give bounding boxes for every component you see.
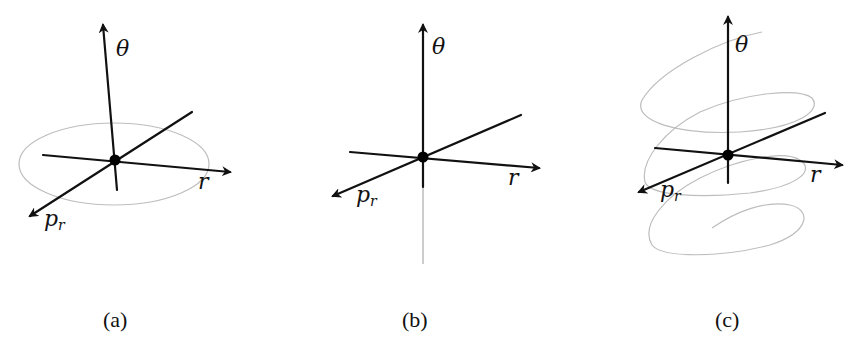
panel-a: θ r p r (a) — [19, 25, 230, 332]
p-label: p — [356, 182, 370, 207]
theta-label: θ — [116, 36, 129, 61]
panel-b: θ r p r (b) — [333, 25, 539, 332]
r-label: r — [508, 165, 520, 190]
fixed-point-dot — [110, 155, 121, 166]
fixed-point-dot — [723, 150, 734, 161]
p-label: p — [44, 206, 58, 231]
p-subscript-label: r — [370, 193, 378, 209]
p-label: p — [660, 177, 674, 202]
caption-b: (b) — [402, 307, 428, 332]
r-label: r — [810, 162, 822, 187]
fixed-point-dot — [418, 152, 429, 163]
theta-label: θ — [735, 32, 748, 57]
r-label: r — [198, 169, 210, 194]
theta-label: θ — [432, 34, 445, 59]
panel-c: θ r p r (c) — [639, 17, 842, 332]
phase-space-figure: θ r p r (a) θ r p r (b) θ r p r (c) — [0, 0, 865, 351]
p-subscript-label: r — [58, 217, 66, 233]
caption-c: (c) — [715, 307, 739, 332]
caption-a: (a) — [103, 307, 127, 332]
p-subscript-label: r — [674, 188, 682, 204]
